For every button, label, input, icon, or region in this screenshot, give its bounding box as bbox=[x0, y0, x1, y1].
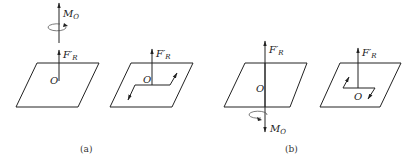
moment-label: MO bbox=[269, 123, 286, 136]
rotation-icon bbox=[48, 24, 66, 31]
panel-a-plane-with-couple: F′R O bbox=[110, 48, 193, 107]
couple-force-left-arrow bbox=[343, 77, 358, 88]
panel-b-plane-with-couple: F′R O bbox=[320, 47, 401, 107]
panel-b-plane-with-moment: F′R O MO bbox=[224, 41, 307, 136]
origin-label: O bbox=[143, 74, 151, 85]
rotation-arrowhead-icon bbox=[63, 23, 68, 27]
couple-force-left-arrow bbox=[128, 85, 152, 100]
rotation-icon bbox=[249, 111, 267, 118]
origin-label: O bbox=[50, 75, 58, 86]
caption-b: (b) bbox=[285, 144, 298, 154]
rotation-arrowhead-icon bbox=[257, 117, 262, 121]
couple-force-right-arrow bbox=[152, 73, 177, 85]
origin-label: O bbox=[256, 83, 264, 94]
panel-a-plane-with-moment: F′R MO O bbox=[16, 3, 99, 107]
moment-label: MO bbox=[62, 8, 79, 21]
force-label: F′R bbox=[155, 48, 171, 61]
force-label: F′R bbox=[62, 49, 78, 62]
statics-reduction-diagram: F′R MO O F′R O (a) F′R O MO F′R bbox=[0, 0, 419, 163]
force-label: F′R bbox=[361, 47, 377, 60]
force-label: F′R bbox=[268, 44, 284, 57]
caption-a: (a) bbox=[80, 144, 92, 154]
origin-label: O bbox=[354, 91, 362, 102]
